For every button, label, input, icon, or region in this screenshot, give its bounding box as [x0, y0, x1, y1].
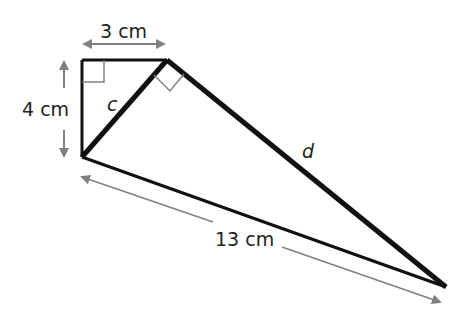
- dimension-arrow-bottom-left: [82, 177, 213, 222]
- label-left-side: 4 cm: [22, 98, 69, 120]
- label-d: d: [302, 140, 315, 162]
- label-c: c: [107, 93, 118, 115]
- side-bottom: [82, 157, 446, 287]
- right-angle-marker-top-right: [154, 74, 184, 91]
- triangle-diagram: 3 cm 4 cm 13 cm c d: [0, 0, 475, 325]
- side-c: [82, 60, 167, 157]
- label-bottom-side: 13 cm: [215, 228, 274, 250]
- right-angle-marker-top-left: [82, 60, 104, 82]
- side-d: [167, 60, 446, 287]
- label-top-side: 3 cm: [100, 20, 147, 42]
